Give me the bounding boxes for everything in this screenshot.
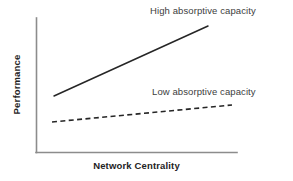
- series-label-low-absorptive-capacity: Low absorptive capacity: [152, 86, 256, 97]
- y-axis-title: Performance: [11, 39, 22, 131]
- series-label-high-absorptive-capacity: High absorptive capacity: [150, 5, 256, 16]
- chart-figure: High absorptive capacity Low absorptive …: [0, 0, 293, 181]
- x-axis-title: Network Centrality: [0, 160, 273, 171]
